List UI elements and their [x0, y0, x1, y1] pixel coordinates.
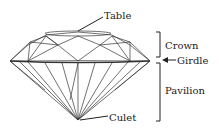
- diamond-diagram: Table Crown Girdle Pavilion Culet: [0, 0, 219, 134]
- girdle-arrow-icon: [162, 57, 176, 63]
- label-table: Table: [104, 10, 131, 21]
- label-pavilion: Pavilion: [165, 85, 206, 96]
- label-crown: Crown: [165, 40, 199, 51]
- label-girdle: Girdle: [177, 55, 209, 66]
- diamond-outline: [10, 31, 150, 120]
- label-culet: Culet: [109, 112, 136, 123]
